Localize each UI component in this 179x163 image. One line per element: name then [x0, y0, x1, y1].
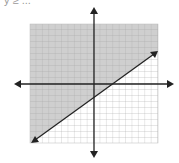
x-axis-left-arrow-icon — [14, 80, 21, 88]
x-axis-right-arrow-icon — [167, 80, 174, 88]
y-axis-up-arrow-icon — [90, 7, 98, 14]
inequality-graph — [0, 0, 179, 163]
y-axis-down-arrow-icon — [90, 151, 98, 158]
